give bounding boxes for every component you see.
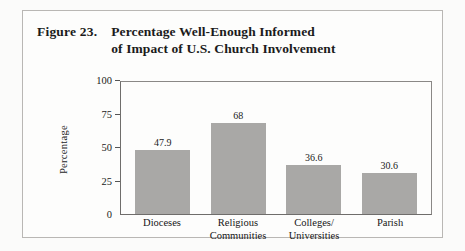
y-tick-25: 25	[59, 176, 120, 187]
y-axis-ticks: 100 75 50 25 0	[59, 73, 120, 215]
bar-slot-parish: 30.6	[359, 81, 419, 214]
y-tick-label-50: 50	[102, 142, 116, 153]
x-label-religious-communities-line-1: Religious	[208, 217, 268, 230]
y-tick-label-25: 25	[102, 176, 116, 187]
bar-value-parish: 30.6	[381, 160, 399, 171]
figure-title: Figure 23. Percentage Well-Enough Inform…	[37, 23, 432, 57]
figure-number: Figure 23.	[37, 23, 111, 40]
x-label-colleges-universities: Colleges/ Universities	[284, 217, 344, 242]
bar-slot-colleges-universities: 36.6	[284, 81, 344, 214]
x-axis-labels: Dioceses Religious Communities Colleges/…	[120, 217, 432, 242]
x-label-dioceses-line-1: Dioceses	[132, 217, 192, 230]
figure-title-line-2: of Impact of U.S. Church Involvement	[111, 40, 335, 57]
bar-chart: Percentage 100 75 50 25	[59, 73, 434, 238]
x-label-parish: Parish	[360, 217, 420, 242]
bar-religious-communities[interactable]	[211, 123, 266, 214]
x-label-religious-communities-line-2: Communities	[208, 230, 268, 243]
y-tick-100: 100	[59, 75, 120, 86]
bar-value-dioceses: 47.9	[154, 137, 172, 148]
bar-colleges-universities[interactable]	[286, 165, 341, 214]
y-tick-label-0: 0	[107, 209, 115, 220]
x-label-religious-communities: Religious Communities	[208, 217, 268, 242]
y-tick-label-75: 75	[102, 109, 116, 120]
x-label-parish-line-1: Parish	[360, 217, 420, 230]
bar-value-colleges-universities: 36.6	[305, 152, 323, 163]
bar-slot-dioceses: 47.9	[133, 81, 193, 214]
bar-parish[interactable]	[362, 173, 417, 214]
y-tick-75: 75	[59, 109, 120, 120]
y-tick-label-100: 100	[96, 75, 115, 86]
y-tick-0: 0	[59, 209, 120, 220]
figure-title-line-1: Percentage Well-Enough Informed	[111, 23, 335, 40]
bar-slot-religious-communities: 68	[208, 81, 268, 214]
bar-dioceses[interactable]	[135, 150, 190, 214]
x-label-dioceses: Dioceses	[132, 217, 192, 242]
y-tick-50: 50	[59, 142, 120, 153]
figure-title-text: Percentage Well-Enough Informed of Impac…	[111, 23, 335, 57]
figure-page: Figure 23. Percentage Well-Enough Inform…	[0, 0, 465, 251]
plot-area: 47.9 68 36.6 30.6	[120, 81, 432, 215]
figure-frame: Figure 23. Percentage Well-Enough Inform…	[22, 10, 443, 238]
x-label-colleges-universities-line-1: Colleges/	[284, 217, 344, 230]
bar-value-religious-communities: 68	[233, 110, 243, 121]
x-label-colleges-universities-line-2: Universities	[284, 230, 344, 243]
bar-series: 47.9 68 36.6 30.6	[121, 81, 431, 214]
